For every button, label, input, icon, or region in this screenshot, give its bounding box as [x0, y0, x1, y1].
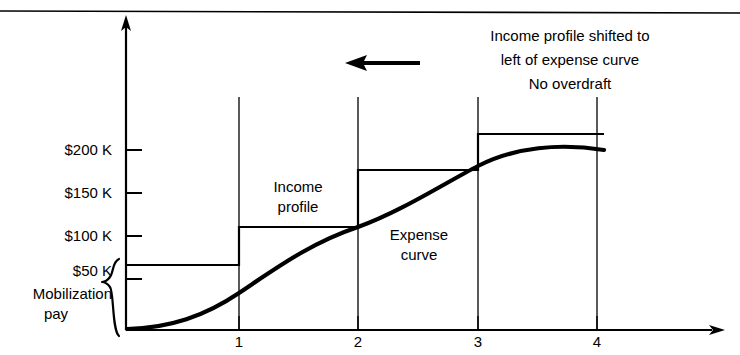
y-tick-label-200k: $200 K — [26, 141, 112, 159]
x-tick-marks — [239, 316, 597, 330]
income-profile-label-line1: Income — [250, 178, 346, 196]
page-top-rule — [0, 11, 740, 13]
y-tick-label-100k: $100 K — [26, 227, 112, 245]
expense-curve — [127, 147, 604, 329]
annotation-line-3: No overdraft — [420, 75, 720, 93]
expense-curve-label-line1: Expense — [370, 226, 468, 244]
left-arrow-icon — [345, 55, 420, 71]
expense-curve-label-line2: curve — [370, 246, 468, 264]
x-axis — [126, 325, 725, 335]
y-tick-label-50k: $50 K — [26, 262, 112, 280]
y-axis — [121, 15, 131, 330]
y-tick-label-150k: $150 K — [26, 184, 112, 202]
annotation-line-2: left of expense curve — [420, 51, 720, 69]
x-tick-label-2: 2 — [346, 333, 370, 351]
income-profile-step — [127, 134, 604, 265]
mobilization-pay-label-line1: Mobilization — [0, 285, 112, 303]
chart-figure: $200 K $150 K $100 K $50 K Mobilization … — [0, 0, 740, 355]
mobilization-pay-label-line2: pay — [0, 305, 112, 323]
y-tick-marks — [126, 150, 142, 279]
x-tick-label-4: 4 — [585, 333, 609, 351]
income-profile-label-line2: profile — [250, 198, 346, 216]
x-tick-label-3: 3 — [466, 333, 490, 351]
annotation-line-1: Income profile shifted to — [420, 27, 720, 45]
x-tick-label-1: 1 — [227, 333, 251, 351]
